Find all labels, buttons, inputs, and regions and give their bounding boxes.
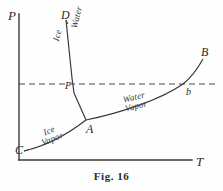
point-label-b-upper: B <box>201 46 208 58</box>
point-label-c: C <box>15 144 23 156</box>
point-marker-c <box>24 150 28 151</box>
point-label-d: D <box>61 9 70 21</box>
point-label-b-lower: b <box>186 87 191 97</box>
point-label-a: A <box>86 123 93 135</box>
figure-caption: Fig. 16 <box>0 170 223 182</box>
x-axis-label: T <box>196 155 203 168</box>
y-axis-label: P <box>8 9 16 22</box>
figure-container: P T D F A C b B Ice Water Ice Vapor Wate… <box>0 0 223 191</box>
fusion-curve <box>66 20 86 120</box>
point-label-f: F <box>65 81 71 91</box>
